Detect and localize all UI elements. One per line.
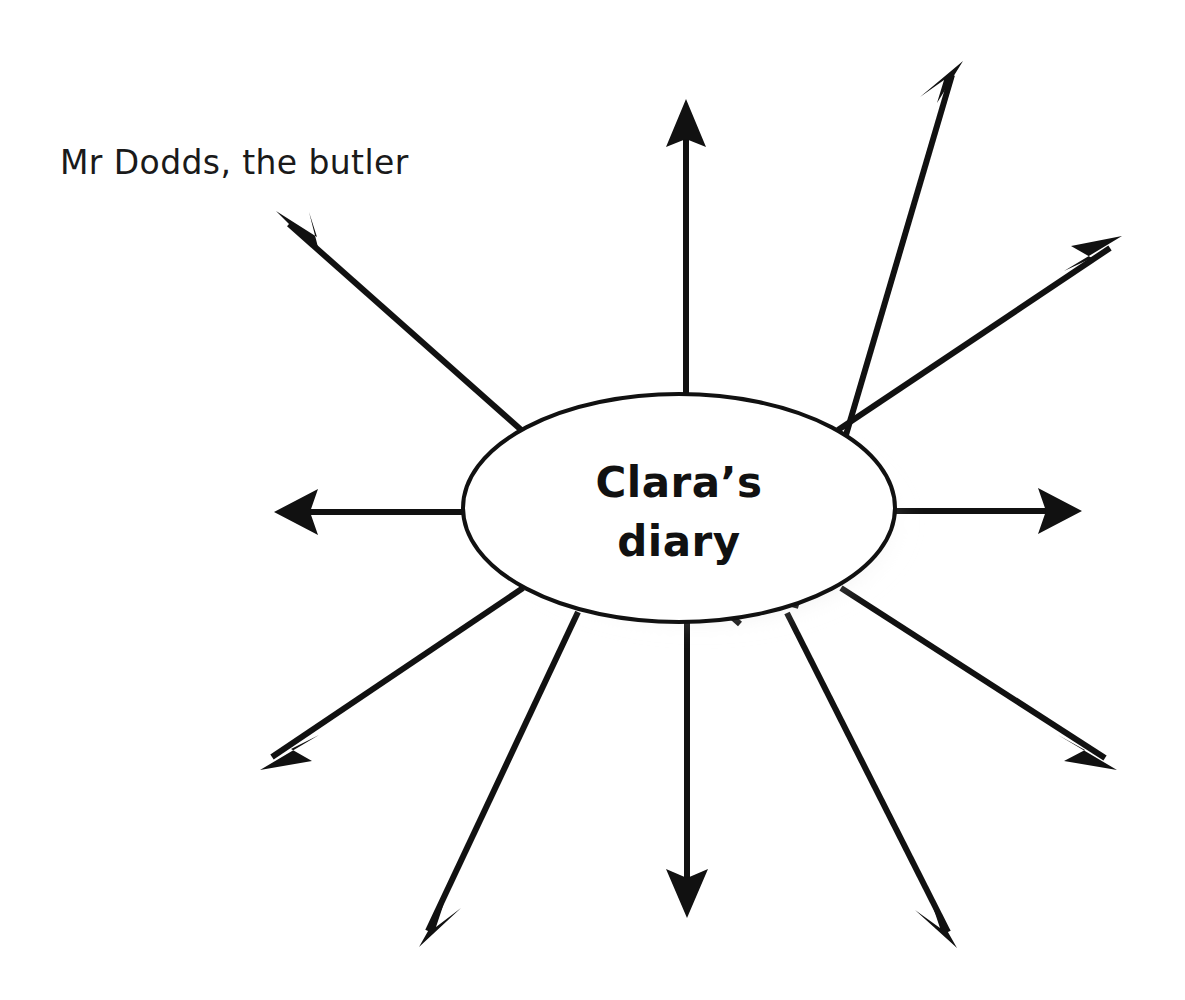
centre-ellipse[interactable] xyxy=(463,394,895,622)
centre-label-line-2: diary xyxy=(617,517,740,566)
branch-label-mr-dodds: Mr Dodds, the butler xyxy=(60,143,409,182)
arrowhead-lower-right-shallow xyxy=(1058,735,1117,770)
arrowhead-upper-right-steep xyxy=(920,61,963,103)
centre-label-line-1: Clara’s xyxy=(595,458,762,507)
branch-line-lower-right-shallow xyxy=(841,588,1105,758)
branch-line-upper-right-shallow xyxy=(838,248,1110,430)
arrowhead-lower-left-shallow xyxy=(260,735,319,770)
branch-line-lower-left-steep xyxy=(428,612,578,931)
arrowhead-upper-right-shallow xyxy=(1064,236,1122,271)
branch-line-lower-right-steep xyxy=(787,613,948,932)
spider-diagram-page: Clara’s diary Mr Dodds, the butler xyxy=(0,0,1185,1000)
arrowhead-upper-left xyxy=(276,211,320,255)
branch-line-lower-left-shallow xyxy=(272,588,523,757)
